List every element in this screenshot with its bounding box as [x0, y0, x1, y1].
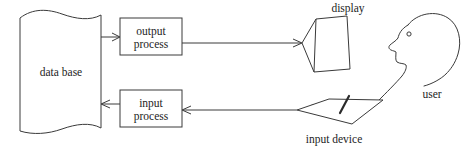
- data-base-label: data base: [21, 66, 101, 79]
- arrow-output-process-to-display: [182, 39, 302, 47]
- output-process-label-line1: output: [123, 25, 179, 38]
- input-device-label: input device: [289, 133, 379, 146]
- user-label: user: [412, 88, 452, 101]
- arrow-input-device-to-input-process: [182, 106, 297, 114]
- arrow-input-process-to-database: [101, 100, 120, 108]
- input-process-label: input process: [123, 97, 179, 123]
- input-process-label-line2: process: [123, 110, 179, 123]
- diagram-canvas: data base output process input process d…: [0, 0, 471, 156]
- display-shape: [302, 16, 350, 72]
- display-label: display: [320, 2, 376, 15]
- arrow-database-to-output-process: [101, 33, 120, 41]
- output-process-label: output process: [123, 25, 179, 51]
- output-process-label-line2: process: [123, 38, 179, 51]
- user-eye-icon: [407, 32, 411, 36]
- input-process-label-line1: input: [123, 97, 179, 110]
